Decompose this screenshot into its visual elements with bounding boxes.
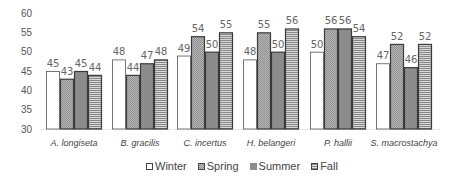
- legend-label: Summer: [259, 160, 301, 172]
- bar-summer: [206, 52, 219, 129]
- spring-swatch-icon: [198, 163, 205, 170]
- value-label: 56: [286, 15, 299, 26]
- legend-label: Winter: [155, 160, 187, 172]
- value-label: 44: [127, 62, 140, 73]
- bar-fall: [353, 37, 366, 129]
- value-label: 43: [61, 66, 74, 77]
- value-label: 47: [377, 50, 390, 61]
- bar-winter: [178, 56, 191, 129]
- bar-summer: [141, 64, 154, 129]
- bar-winter: [244, 60, 257, 129]
- y-tick-label: 40: [21, 85, 33, 96]
- bar-fall: [286, 29, 299, 129]
- bar-winter: [377, 64, 390, 129]
- value-label: 49: [178, 43, 191, 54]
- value-label: 45: [47, 58, 60, 69]
- value-label: 54: [353, 23, 366, 34]
- bar-fall: [155, 60, 168, 129]
- value-label: 48: [244, 46, 257, 57]
- summer-swatch-icon: [250, 163, 257, 170]
- legend: Winter Spring Summer Fall: [146, 160, 338, 172]
- bar-spring: [61, 79, 74, 129]
- y-tick-label: 45: [21, 66, 33, 77]
- legend-item-spring: Spring: [198, 160, 239, 172]
- value-label: 54: [192, 23, 205, 34]
- value-label: 55: [220, 19, 233, 30]
- category-label: B. gracilis: [120, 138, 160, 148]
- bar-spring: [258, 33, 271, 129]
- bar-spring: [325, 29, 338, 129]
- category-label: P. hallii: [324, 138, 353, 148]
- value-labels: 4543454448444748495450554855505650565654…: [47, 15, 432, 76]
- bar-summer: [75, 72, 88, 130]
- category-label: S. macrostachya: [370, 138, 437, 148]
- y-tick-label: 55: [21, 27, 33, 38]
- value-label: 50: [311, 39, 324, 50]
- bar-fall: [89, 75, 102, 129]
- legend-label: Fall: [320, 160, 338, 172]
- bar-spring: [192, 37, 205, 129]
- bar-chart: 30354045505560 4543454448444748495450554…: [0, 0, 456, 183]
- y-tick-label: 35: [21, 104, 33, 115]
- bar-fall: [419, 44, 432, 129]
- value-label: 48: [113, 46, 126, 57]
- category-label: C. incertus: [183, 138, 227, 148]
- bar-spring: [127, 75, 140, 129]
- value-label: 52: [391, 31, 404, 42]
- bar-winter: [311, 52, 324, 129]
- bar-spring: [391, 44, 404, 129]
- y-tick-label: 60: [21, 8, 33, 19]
- value-label: 50: [206, 39, 219, 50]
- bar-winter: [47, 72, 60, 130]
- category-label: H. belangeri: [247, 138, 297, 148]
- y-tick-label: 50: [21, 46, 33, 57]
- bar-summer: [272, 52, 285, 129]
- y-tick-label: 30: [21, 124, 33, 135]
- category-label: A. longiseta: [49, 138, 97, 148]
- bars: [47, 29, 432, 129]
- value-label: 50: [272, 39, 285, 50]
- value-label: 44: [89, 62, 102, 73]
- fall-swatch-icon: [311, 163, 318, 170]
- legend-item-winter: Winter: [146, 160, 187, 172]
- bar-fall: [220, 33, 233, 129]
- legend-item-summer: Summer: [250, 160, 301, 172]
- value-label: 56: [339, 15, 352, 26]
- y-axis: 30354045505560: [21, 8, 33, 135]
- winter-swatch-icon: [146, 163, 153, 170]
- category-labels: A. longisetaB. gracilisC. incertusH. bel…: [49, 138, 437, 148]
- value-label: 47: [141, 50, 154, 61]
- value-label: 56: [325, 15, 338, 26]
- value-label: 48: [155, 46, 168, 57]
- bar-winter: [113, 60, 126, 129]
- value-label: 45: [75, 58, 88, 69]
- value-label: 52: [419, 31, 432, 42]
- bar-summer: [405, 68, 418, 129]
- value-label: 46: [405, 54, 418, 65]
- bar-summer: [339, 29, 352, 129]
- legend-item-fall: Fall: [311, 160, 338, 172]
- value-label: 55: [258, 19, 271, 30]
- legend-label: Spring: [207, 160, 239, 172]
